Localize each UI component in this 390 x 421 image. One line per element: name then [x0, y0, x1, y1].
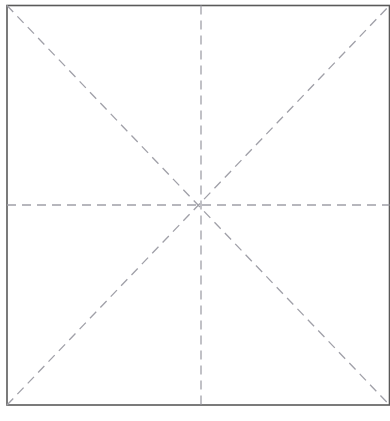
- crease-pattern-svg: [0, 0, 390, 421]
- figure-canvas: Square crease pattern with eight radial …: [0, 0, 390, 421]
